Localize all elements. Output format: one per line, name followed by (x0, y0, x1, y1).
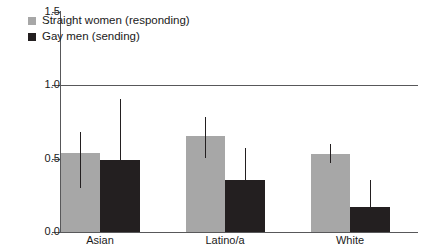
legend-item-straight-women: Straight women (responding) (28, 14, 190, 28)
y-tick-0.0: 0.0 (0, 232, 60, 233)
legend-item-gay-men: Gay men (sending) (28, 30, 190, 44)
errorbar-asian-gay-men (120, 99, 121, 218)
chart-legend: Straight women (responding) Gay men (sen… (28, 14, 190, 46)
x-label-asian: Asian (60, 234, 140, 247)
y-tick-label-0.0: 0.0 (12, 226, 60, 237)
bar-chart: 1.5 1.0 0.5 0.0 Asian Latino/a (0, 0, 421, 247)
errorbar-asian-straight-women (80, 132, 81, 188)
errorbar-white-gay-men (370, 180, 371, 217)
legend-label-straight-women: Straight women (responding) (42, 15, 190, 27)
errorbar-latino-gay-men (245, 148, 246, 200)
y-tick-1.5: 1.5 (0, 12, 60, 13)
y-tick-0.5: 0.5 (0, 159, 60, 160)
errorbar-latino-straight-women (205, 117, 206, 158)
legend-swatch-icon-dark (28, 33, 36, 41)
x-label-white: White (310, 234, 390, 247)
legend-label-gay-men: Gay men (sending) (42, 31, 140, 43)
x-label-latino: Latino/a (185, 234, 265, 247)
errorbar-white-straight-women (330, 144, 331, 163)
y-tick-label-1.0: 1.0 (12, 79, 60, 90)
bar-white-straight-women (311, 154, 350, 232)
x-axis-line (60, 232, 418, 233)
y-tick-label-0.5: 0.5 (12, 153, 60, 164)
y-tick-1.0: 1.0 (0, 85, 60, 86)
legend-swatch-icon-light (28, 17, 36, 25)
reference-line-1.0 (52, 85, 418, 86)
